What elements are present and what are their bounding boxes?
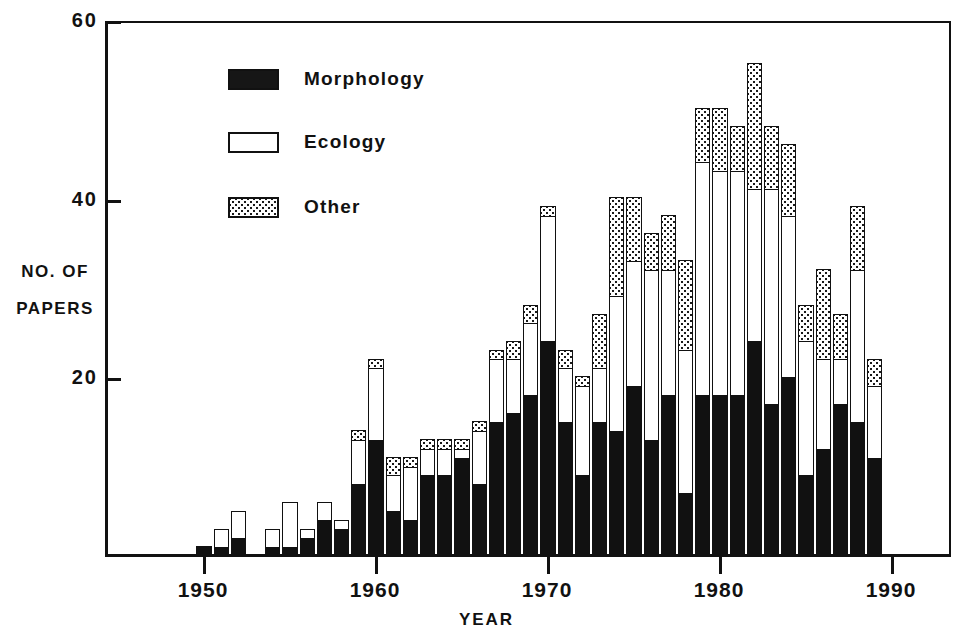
bar-1985	[798, 306, 813, 557]
bar-1976	[644, 235, 659, 557]
bar-1961	[386, 459, 401, 557]
bar-segment-morphology	[798, 475, 813, 557]
bar-segment-ecology	[386, 475, 401, 512]
bar-1958	[334, 521, 349, 557]
bar-segment-morphology	[575, 475, 590, 557]
bar-segment-morphology	[644, 439, 659, 557]
bar-1962	[403, 459, 418, 557]
bar-segment-other	[730, 126, 745, 172]
bar-segment-other	[575, 376, 590, 387]
bar-1973	[592, 315, 607, 557]
bar-segment-other	[678, 260, 693, 351]
bar-1975	[626, 199, 641, 557]
bar-segment-morphology	[386, 511, 401, 557]
bar-segment-ecology	[403, 466, 418, 521]
bar-segment-ecology	[661, 269, 676, 396]
bar-segment-morphology	[489, 421, 504, 557]
bar-segment-ecology	[712, 171, 727, 396]
bar-1954	[265, 530, 280, 557]
bar-1950	[196, 548, 211, 557]
bar-segment-ecology	[695, 162, 710, 396]
bar-segment-ecology	[265, 529, 280, 549]
bar-segment-morphology	[454, 457, 469, 557]
bar-1960	[368, 360, 383, 557]
bar-segment-other	[781, 144, 796, 217]
bar-segment-morphology	[592, 421, 607, 557]
bar-segment-other	[437, 439, 452, 450]
bar-1968	[506, 342, 521, 557]
bar-1971	[558, 351, 573, 557]
bar-segment-morphology	[403, 520, 418, 557]
bar-segment-morphology	[231, 538, 246, 558]
bar-segment-ecology	[781, 215, 796, 378]
bar-segment-other	[368, 359, 383, 370]
bar-segment-ecology	[351, 439, 366, 485]
bar-1981	[730, 127, 745, 557]
bar-segment-morphology	[730, 394, 745, 557]
bar-segment-ecology	[282, 502, 297, 548]
bar-segment-other	[609, 197, 624, 297]
bar-1978	[678, 262, 693, 557]
bar-segment-other	[764, 126, 779, 190]
bar-segment-other	[523, 305, 538, 325]
bar-1966	[472, 423, 487, 557]
bar-segment-ecology	[506, 359, 521, 414]
bar-1970	[540, 208, 555, 557]
bar-segment-morphology	[609, 430, 624, 557]
bar-segment-other	[454, 439, 469, 450]
bar-1951	[214, 530, 229, 557]
bar-segment-ecology	[472, 430, 487, 485]
bar-segment-ecology	[317, 502, 332, 522]
stacked-bar-chart-figure: 60 40 20 NO. OF PAPERS 1950 1960 1970 19…	[0, 0, 973, 639]
bar-segment-other	[489, 350, 504, 361]
bar-segment-morphology	[661, 394, 676, 557]
bar-segment-morphology	[523, 394, 538, 557]
bar-segment-ecology	[816, 359, 831, 450]
bar-segment-morphology	[317, 520, 332, 557]
bar-segment-other	[712, 108, 727, 172]
bar-1974	[609, 199, 624, 557]
bar-segment-ecology	[558, 367, 573, 422]
bar-segment-other	[351, 430, 366, 441]
bar-segment-morphology	[816, 448, 831, 557]
legend-item-other: Other	[228, 190, 361, 224]
bar-segment-ecology	[523, 323, 538, 396]
bar-1988	[850, 208, 865, 557]
legend-label-other: Other	[304, 196, 361, 218]
bar-1955	[282, 503, 297, 557]
bar-segment-morphology	[833, 403, 848, 557]
bar-segment-morphology	[472, 484, 487, 557]
bar-segment-morphology	[420, 475, 435, 557]
bar-segment-ecology	[368, 367, 383, 440]
bar-segment-ecology	[489, 359, 504, 423]
bar-segment-ecology	[334, 520, 349, 531]
bar-segment-ecology	[437, 448, 452, 476]
bar-segment-ecology	[420, 448, 435, 476]
bar-segment-ecology	[609, 296, 624, 432]
bar-1952	[231, 512, 246, 557]
bar-segment-ecology	[626, 260, 641, 387]
bar-segment-morphology	[558, 421, 573, 557]
bar-segment-other	[695, 108, 710, 163]
bar-segment-other	[558, 350, 573, 370]
legend-swatch-morphology-icon	[228, 69, 279, 90]
bar-segment-other	[816, 269, 831, 360]
bar-segment-ecology	[747, 188, 762, 342]
bar-segment-morphology	[747, 341, 762, 557]
bar-segment-morphology	[695, 394, 710, 557]
bar-segment-other	[644, 233, 659, 270]
bar-segment-ecology	[214, 529, 229, 549]
bar-segment-ecology	[798, 341, 813, 477]
bar-1967	[489, 351, 504, 557]
bar-segment-ecology	[867, 385, 882, 458]
bar-1972	[575, 378, 590, 557]
bar-1980	[712, 110, 727, 558]
bar-segment-other	[592, 314, 607, 369]
bar-segment-morphology	[781, 376, 796, 557]
bar-segment-ecology	[592, 367, 607, 422]
bar-segment-morphology	[351, 484, 366, 557]
bar-segment-other	[833, 314, 848, 360]
bar-segment-ecology	[231, 511, 246, 539]
bar-segment-morphology	[867, 457, 882, 557]
bar-segment-ecology	[833, 359, 848, 405]
